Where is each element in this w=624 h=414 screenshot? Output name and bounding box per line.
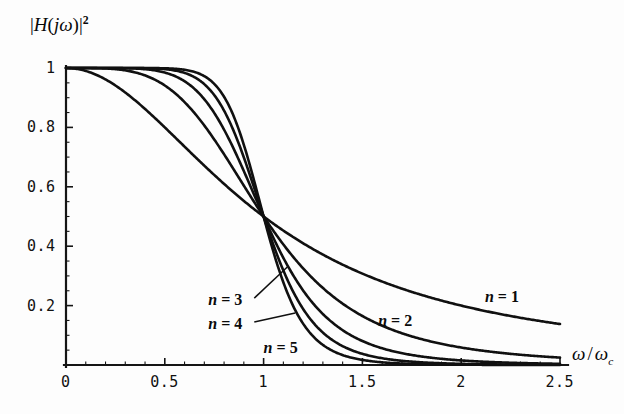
butterworth-response-figure: |H(jω)|2 ω/ωc 00.511.522.5 0.20.40.60.81…	[0, 0, 624, 414]
chart-plot-area	[0, 0, 624, 414]
curve-n-4	[66, 68, 560, 365]
series-label-order: 1	[511, 288, 519, 305]
series-label-equals: =	[387, 312, 404, 329]
axes	[64, 66, 568, 367]
series-label-equals: =	[217, 315, 234, 332]
response-curves	[66, 68, 560, 365]
series-label-n-1: n = 1	[485, 288, 519, 306]
y-tick-label: 0.2	[27, 297, 56, 315]
xlabel-slash: /	[585, 343, 594, 364]
xlabel-omega-c: ω	[595, 343, 608, 364]
y-axis-title: |H(jω)|2	[30, 14, 89, 36]
series-label-equals: =	[217, 291, 234, 308]
series-label-order: 2	[404, 312, 412, 329]
curve-n-1	[66, 68, 560, 324]
xlabel-subscript-c: c	[608, 355, 613, 367]
x-tick-label: 0	[61, 373, 71, 391]
series-label-variable: n	[208, 315, 217, 332]
ylabel-exponent: 2	[83, 14, 89, 27]
leader-line-n-4	[254, 313, 295, 322]
x-tick-label: 0.5	[150, 373, 179, 391]
series-label-order: 5	[290, 339, 298, 356]
series-label-order: 4	[234, 315, 242, 332]
ylabel-omega: ω	[59, 14, 72, 35]
series-label-variable: n	[264, 339, 273, 356]
series-label-variable: n	[208, 291, 217, 308]
y-tick-label: 0.6	[27, 178, 56, 196]
series-label-n-4: n = 4	[208, 315, 242, 333]
x-tick-label: 2.5	[546, 373, 575, 391]
series-label-equals: =	[273, 339, 290, 356]
ylabel-h: H	[34, 14, 48, 35]
series-label-variable: n	[485, 288, 494, 305]
xlabel-omega: ω	[572, 343, 585, 364]
series-label-equals: =	[494, 288, 511, 305]
y-tick-label: 0.4	[27, 237, 56, 255]
x-tick-label: 2	[456, 373, 466, 391]
curve-n-3	[66, 68, 560, 364]
series-label-n-3: n = 3	[208, 291, 242, 309]
series-label-variable: n	[378, 312, 387, 329]
series-label-order: 3	[234, 291, 242, 308]
series-label-n-2: n = 2	[378, 312, 412, 330]
x-tick-label: 1.5	[348, 373, 377, 391]
y-tick-label: 1	[46, 59, 56, 77]
y-tick-label: 0.8	[27, 118, 56, 136]
x-tick-label: 1	[259, 373, 269, 391]
curve-n-2	[66, 68, 560, 358]
series-label-n-5: n = 5	[264, 339, 298, 357]
x-axis-title: ω/ωc	[572, 343, 613, 367]
